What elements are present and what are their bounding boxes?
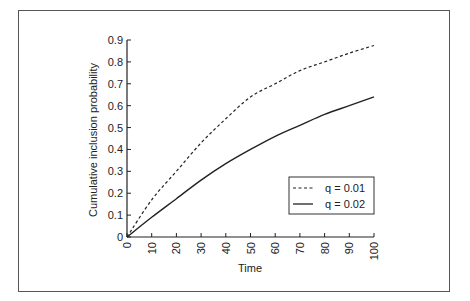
x-tick-label: 40: [220, 242, 232, 254]
x-axis-label: Time: [238, 262, 262, 274]
x-tick-label: 20: [170, 242, 182, 254]
y-tick-label: 0.6: [108, 100, 123, 112]
legend: q = 0.01 q = 0.02: [289, 177, 374, 214]
y-tick-label: 0.9: [108, 34, 123, 46]
x-tick-label: 50: [245, 242, 257, 254]
y-tick-label: 0.2: [108, 187, 123, 199]
x-tick-label: 0: [121, 242, 133, 248]
x-tick-label: 90: [343, 242, 355, 254]
series-line-q002: [127, 97, 374, 237]
axes: 00.10.20.30.40.50.60.70.80.9010203040506…: [108, 34, 380, 260]
y-tick-label: 0.5: [108, 122, 123, 134]
x-tick-label: 30: [195, 242, 207, 254]
y-tick-label: 0.3: [108, 165, 123, 177]
y-tick-label: 0: [117, 231, 123, 243]
y-tick-label: 0.1: [108, 209, 123, 221]
y-tick-label: 0.8: [108, 56, 123, 68]
legend-label-q002: q = 0.02: [325, 198, 365, 210]
y-axis-label: Cumulative inclusion probability: [87, 62, 99, 217]
x-tick-label: 100: [368, 242, 380, 260]
y-tick-label: 0.4: [108, 143, 123, 155]
x-tick-label: 70: [294, 242, 306, 254]
line-chart: 00.10.20.30.40.50.60.70.80.9010203040506…: [0, 0, 470, 301]
x-tick-label: 10: [146, 242, 158, 254]
x-tick-label: 60: [269, 242, 281, 254]
x-tick-label: 80: [319, 242, 331, 254]
y-tick-label: 0.7: [108, 78, 123, 90]
legend-label-q001: q = 0.01: [325, 182, 365, 194]
